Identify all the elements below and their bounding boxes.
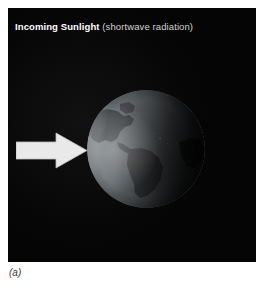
figure-panel: Incoming Sunlight (shortwave radiation)	[8, 8, 256, 262]
panel-title: Incoming Sunlight (shortwave radiation)	[15, 17, 193, 33]
panel-title-light: (shortwave radiation)	[102, 21, 193, 32]
earth-globe-sphere	[87, 90, 205, 208]
panel-title-strong: Incoming Sunlight	[15, 21, 100, 32]
figure-sub-label: (a)	[9, 268, 21, 278]
earth-limb-darkening	[87, 90, 205, 208]
incoming-sunlight-arrow-icon	[16, 132, 88, 169]
earth-globe	[87, 90, 205, 208]
